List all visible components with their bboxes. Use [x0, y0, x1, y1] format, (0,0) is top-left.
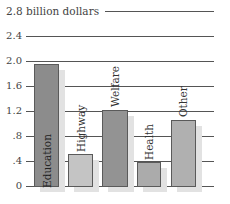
gridline-2-0: [26, 61, 214, 62]
bar-other: [171, 120, 196, 187]
y-tick-0-8: .8: [0, 130, 22, 142]
y-tick-2-4: 2.4: [0, 30, 22, 42]
bar-highway: [68, 154, 93, 187]
y-tick-1-6: 1.6: [0, 80, 22, 92]
bar-label-education: Education: [41, 134, 53, 188]
bar-label-health: Health: [143, 124, 155, 160]
bar-label-welfare: Welfare: [109, 66, 121, 107]
gridline-2-4: [26, 36, 214, 37]
y-axis-top-label: 2.8 billion dollars: [6, 4, 105, 18]
bar-health: [137, 162, 161, 187]
y-tick-0: 0: [0, 180, 22, 192]
gridline-2-8: [104, 11, 214, 12]
bar-welfare: [102, 110, 128, 187]
bar-label-other: Other: [177, 86, 189, 117]
bar-chart: 2.8 billion dollars 2.4 2.0 1.6 1.2 .8 .…: [0, 0, 230, 204]
y-tick-0-4: .4: [0, 155, 22, 167]
bar-label-highway: Highway: [75, 105, 87, 152]
y-tick-2-0: 2.0: [0, 55, 22, 67]
y-tick-1-2: 1.2: [0, 105, 22, 117]
